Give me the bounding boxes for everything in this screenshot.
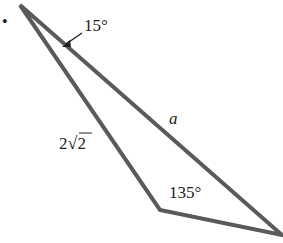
angle-label-bottom: 135° xyxy=(169,184,201,201)
radical-sign-icon: √ xyxy=(68,133,78,153)
triangle-diagram xyxy=(0,0,283,243)
side-label-left: 2√2 xyxy=(59,134,86,152)
side-radicand: 2 xyxy=(77,134,86,153)
triangle xyxy=(20,5,282,235)
bullet-marker: • xyxy=(2,14,8,30)
angle-label-top: 15° xyxy=(84,17,108,34)
side-coefficient: 2 xyxy=(59,134,68,153)
side-label-a: a xyxy=(169,110,178,127)
